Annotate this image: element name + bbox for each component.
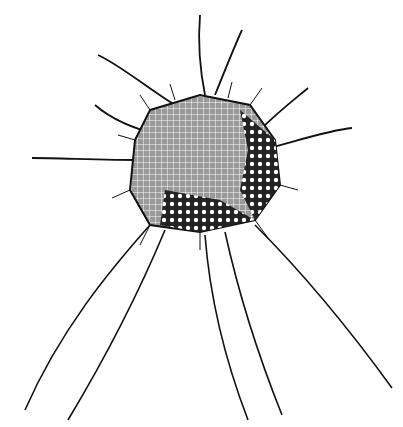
lower-spines [25,225,392,420]
radiolarian-drawing [0,0,403,427]
illustration [0,0,403,427]
